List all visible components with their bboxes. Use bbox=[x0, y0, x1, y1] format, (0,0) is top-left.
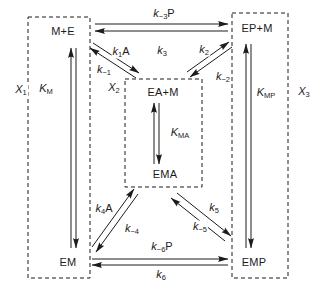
rate-constant-k4A: k4A bbox=[94, 203, 113, 216]
rate-constant-k2: k2 bbox=[198, 44, 210, 57]
km1-sub: −1 bbox=[102, 68, 111, 77]
k1A-suffix: A bbox=[122, 45, 129, 57]
dashed-box-left-ME-EM bbox=[28, 17, 90, 278]
km2-sub: −2 bbox=[221, 75, 230, 84]
arrows-k3-km3P bbox=[95, 24, 228, 31]
state-emp: EMP bbox=[241, 256, 267, 268]
k6-sub: 6 bbox=[162, 273, 166, 282]
km6P-suffix: P bbox=[165, 240, 172, 252]
dashed-box-right-EPM-EMP bbox=[232, 13, 288, 278]
state-m-plus-e: M+E bbox=[50, 25, 76, 37]
state-ema: EMA bbox=[152, 168, 178, 180]
rate-constant-k6: k6 bbox=[155, 269, 167, 282]
k2-sub: 2 bbox=[205, 48, 209, 57]
rate-constant-km6P: k−6P bbox=[150, 241, 173, 254]
state-em: EM bbox=[59, 256, 78, 268]
km4-sub: −4 bbox=[130, 227, 139, 236]
rate-constant-k3: k3 bbox=[156, 45, 168, 58]
arrows-k6-km6P bbox=[92, 259, 228, 265]
equilibrium-arrows-KMP bbox=[246, 44, 251, 248]
KMP-sub: MP bbox=[264, 91, 275, 100]
equilibrium-constant-KMA: KMA bbox=[170, 127, 191, 140]
rate-constant-k5: k5 bbox=[208, 202, 220, 215]
k3-sub: 3 bbox=[163, 49, 167, 58]
X1-sub: 1 bbox=[23, 88, 27, 97]
equilibrium-arrows-KMA bbox=[154, 103, 159, 164]
rate-constant-km2: k−2 bbox=[215, 71, 231, 84]
arrows-k4A-km4 bbox=[92, 189, 138, 252]
X3-sub: 3 bbox=[306, 90, 310, 99]
km5-sub: −5 bbox=[198, 225, 207, 234]
k4A-suffix: A bbox=[105, 202, 112, 214]
equilibrium-constant-KM: KM bbox=[38, 83, 54, 96]
state-ea-plus-m: EA+M bbox=[146, 86, 179, 98]
mole-fraction-X2: X2 bbox=[107, 82, 121, 95]
km3P-sub: −3 bbox=[159, 12, 168, 21]
equilibrium-arrows-KM bbox=[71, 48, 76, 248]
rate-constant-km4: k−4 bbox=[124, 223, 140, 236]
rate-constant-km5: k−5 bbox=[192, 221, 208, 234]
k5-sub: 5 bbox=[215, 206, 219, 215]
mole-fraction-X3: X3 bbox=[297, 86, 311, 99]
KMA-sub: MA bbox=[178, 131, 189, 140]
equilibrium-constant-KMP: KMP bbox=[256, 87, 277, 100]
km3P-suffix: P bbox=[167, 7, 174, 19]
km6P-sub: −6 bbox=[157, 245, 166, 254]
state-ep-plus-m: EP+M bbox=[240, 22, 273, 34]
mole-fraction-X1: X1 bbox=[14, 84, 28, 97]
kinetic-scheme-diagram: M+E EP+M EA+M EMA EM EMP k−3P k3 k1A k−1… bbox=[0, 0, 323, 297]
rate-constant-km1: k−1 bbox=[96, 64, 112, 77]
rate-constant-km3P: k−3P bbox=[152, 8, 175, 21]
KM-sub: M bbox=[47, 87, 53, 96]
X2-sub: 2 bbox=[116, 86, 120, 95]
rate-constant-k1A: k1A bbox=[111, 46, 130, 59]
